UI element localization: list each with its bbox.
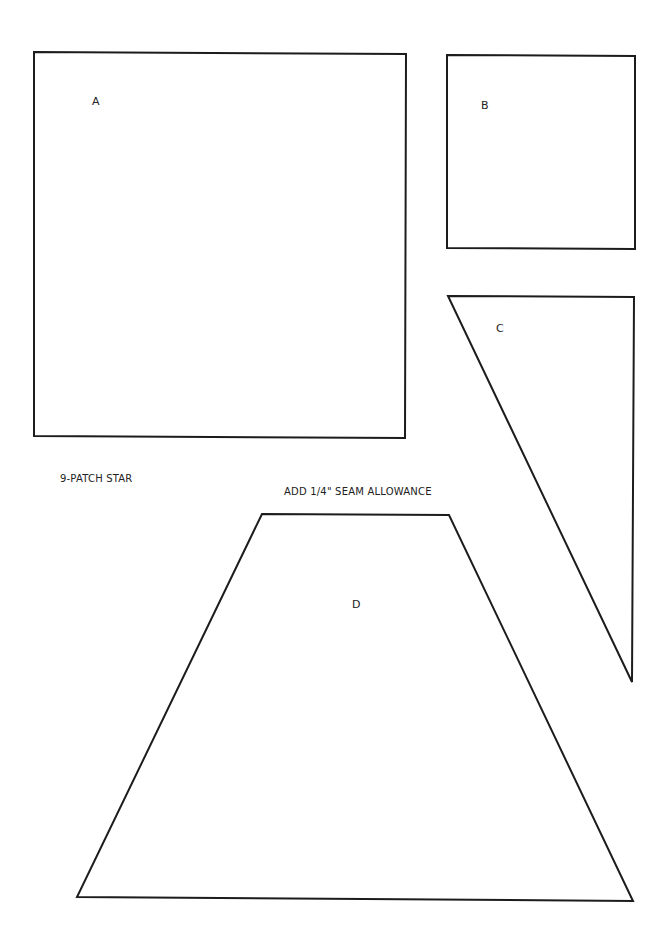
piece-a-square (34, 52, 406, 438)
piece-d-label: D (352, 599, 361, 610)
piece-a-label: A (92, 96, 100, 107)
piece-c-triangle (448, 296, 634, 682)
piece-b-label: B (481, 100, 489, 111)
piece-c-label: C (496, 323, 504, 334)
piece-d-trapezoid (77, 514, 633, 901)
seam-allowance-note: ADD 1/4" SEAM ALLOWANCE (284, 487, 432, 497)
pattern-title: 9-PATCH STAR (60, 474, 133, 484)
piece-b-square (447, 55, 635, 249)
quilt-pattern-canvas (0, 0, 664, 936)
